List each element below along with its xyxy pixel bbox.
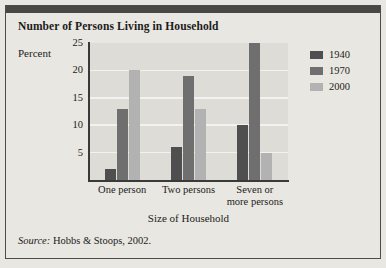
legend-label-1970: 1970 <box>329 66 350 77</box>
x-tick-label: Seven ormore persons <box>205 184 305 208</box>
bar-2000-one-person <box>129 70 140 180</box>
bar-1970-two-persons <box>183 76 194 180</box>
y-tick-label: 20 <box>63 65 83 76</box>
x-tick-label-line: Seven or <box>205 184 305 196</box>
legend-label-1940: 1940 <box>329 50 350 61</box>
bar-2000-two-persons <box>195 109 206 180</box>
y-axis-title: Percent <box>18 47 51 59</box>
legend-item-2000: 2000 <box>310 79 350 95</box>
y-axis-line <box>88 42 90 181</box>
bar-1940-two-persons <box>171 147 182 180</box>
legend-item-1940: 1940 <box>310 47 350 63</box>
source-prefix: Source: <box>18 235 50 246</box>
y-tick-label: 10 <box>63 120 83 131</box>
chart-legend: 194019702000 <box>310 47 350 95</box>
legend-swatch-1940 <box>310 51 323 59</box>
legend-label-2000: 2000 <box>329 82 350 93</box>
x-axis-line <box>88 180 289 182</box>
chart-title: Number of Persons Living in Household <box>18 20 219 32</box>
chart-figure: Number of Persons Living in Household Pe… <box>0 0 386 268</box>
legend-swatch-1970 <box>310 67 323 75</box>
source-citation: Hobbs & Stoops, 2002. <box>53 235 151 246</box>
y-tick-label: 15 <box>63 93 83 104</box>
x-axis-title: Size of Household <box>89 212 288 224</box>
bar-1970-one-person <box>117 109 128 180</box>
top-decorative-bar <box>6 6 380 13</box>
x-tick-label-line: more persons <box>205 196 305 208</box>
legend-swatch-2000 <box>310 83 323 91</box>
y-tick-label: 25 <box>63 38 83 49</box>
bar-1940-one-person <box>105 169 116 180</box>
y-tick-label: 5 <box>63 148 83 159</box>
legend-item-1970: 1970 <box>310 63 350 79</box>
bar-2000-seven-or-more-persons <box>261 153 272 180</box>
bar-1970-seven-or-more-persons <box>249 43 260 180</box>
bar-1940-seven-or-more-persons <box>237 125 248 180</box>
source-note: Source: Hobbs & Stoops, 2002. <box>18 235 151 246</box>
